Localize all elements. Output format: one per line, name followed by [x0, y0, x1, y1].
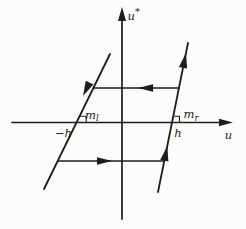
- pos-threshold-label: h: [174, 126, 181, 140]
- right-slope-label-main: m: [184, 107, 195, 121]
- y-axis-label-superscript: *: [135, 6, 140, 17]
- neg-threshold-label: −h: [55, 126, 72, 140]
- figure-background: [0, 0, 246, 229]
- left-slope-label-main: m: [85, 108, 96, 122]
- hysteresis-diagram-canvas: u* u −h h ml mr: [0, 0, 246, 229]
- y-axis-label-main: u: [128, 9, 135, 23]
- x-axis-label: u: [225, 128, 232, 142]
- hysteresis-diagram: u* u −h h ml mr: [0, 0, 246, 229]
- left-slope-label-sub: l: [96, 113, 99, 123]
